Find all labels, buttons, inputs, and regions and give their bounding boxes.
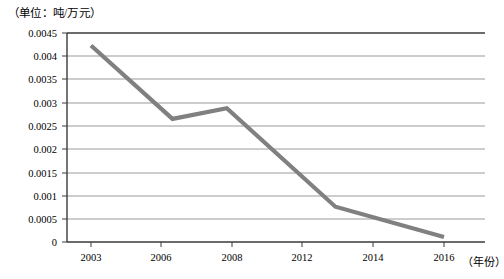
y-tick-label: 0.0035 xyxy=(28,74,57,85)
y-tick-label: 0.002 xyxy=(33,144,57,155)
x-tick-label: 2016 xyxy=(434,252,455,263)
x-tick-label: 2006 xyxy=(151,252,172,263)
line-chart: （单位：吨/万元） xyxy=(0,0,504,279)
series-line-energy-intensity xyxy=(91,46,444,237)
y-tick-label: 0 xyxy=(52,237,57,248)
y-tick-label: 0.004 xyxy=(33,51,57,62)
y-tick-label: 0.0045 xyxy=(28,28,57,39)
y-tick-label: 0.001 xyxy=(33,191,57,202)
x-tick-label: 2012 xyxy=(292,252,313,263)
y-tick-label: 0.0005 xyxy=(28,214,57,225)
x-tick-marks xyxy=(91,242,444,247)
chart-plot-area: 0.0045 0.004 0.0035 0.003 0.0025 0.002 0… xyxy=(0,0,504,279)
y-tick-label: 0.0025 xyxy=(28,121,57,132)
y-tick-label: 0.003 xyxy=(33,98,57,109)
x-tick-label: 2014 xyxy=(363,252,385,263)
y-tick-marks xyxy=(62,33,67,242)
x-tick-label: 2008 xyxy=(222,252,243,263)
y-tick-label: 0.0015 xyxy=(28,168,57,179)
x-tick-label: 2003 xyxy=(81,252,102,263)
x-axis-title: （年份） xyxy=(462,256,504,269)
